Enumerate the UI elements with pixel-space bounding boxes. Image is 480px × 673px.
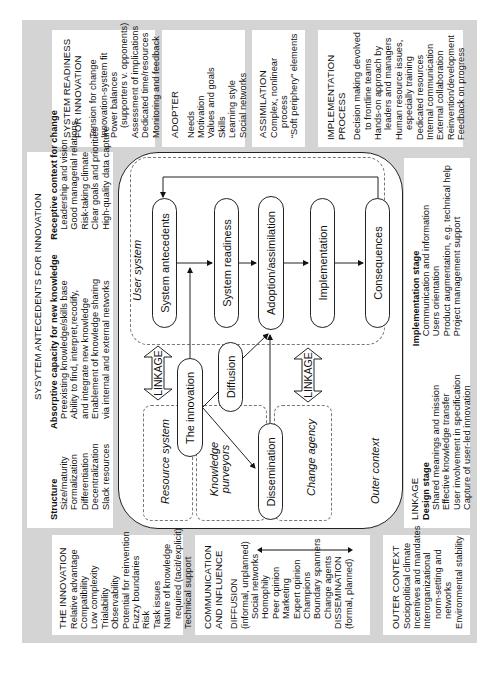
list-item: Environmental stability xyxy=(454,526,464,629)
system-readiness-node: System readiness xyxy=(214,198,239,328)
list-item: Technical support xyxy=(183,528,193,629)
list-item: Observability xyxy=(110,528,120,629)
list-item: Relative advantage xyxy=(69,528,79,629)
system-antecedents-node: System antecedents xyxy=(152,198,177,328)
box-title: OUTER CONTEXT xyxy=(391,526,402,629)
label-line: purveyors xyxy=(220,429,231,509)
list-item: Task issues xyxy=(152,528,162,629)
list-item: Trialability xyxy=(100,528,110,629)
resource-system-label: Resource system xyxy=(159,424,171,504)
outer-context-label: Outer context xyxy=(369,436,381,506)
list-item: Risk xyxy=(141,528,151,629)
adoption-assimilation-node: Adoption/assimilation xyxy=(258,196,284,330)
linkage-label-right: LINKAGE xyxy=(293,347,323,403)
node-label: Dissemination xyxy=(265,437,277,506)
knowledge-purveyors-label: Knowledge purveyors xyxy=(209,429,231,509)
consequences-node: Consequences xyxy=(365,198,390,328)
list-item: Interorganizational xyxy=(422,526,432,629)
node-label: Adoption/assimilation xyxy=(265,211,277,315)
implementation-node: Implementation xyxy=(310,198,335,328)
list-item: Nature of knowledge xyxy=(162,528,172,629)
diffusion-node: Diffusion xyxy=(218,342,243,412)
dissemination-node: Dissemination xyxy=(258,423,283,520)
node-label: Consequences xyxy=(372,226,384,299)
the-innovation-box: THE INNOVATION Relative advantage Compat… xyxy=(52,535,183,635)
innovation-node: The innovation xyxy=(177,358,203,457)
diffusion-sub: (informal, unplanned) xyxy=(240,538,250,629)
node-label: Diffusion xyxy=(225,356,237,399)
node-label: The innovation xyxy=(184,371,196,443)
list-item: Sociopolitical climate xyxy=(402,526,412,629)
list-item: networks xyxy=(443,526,453,629)
node-label: System readiness xyxy=(221,219,233,306)
node-label: System antecedents xyxy=(159,213,171,313)
user-system-label: User system xyxy=(131,241,143,301)
linkage-label: LINKAGE xyxy=(152,350,164,396)
change-agency-label: Change agency xyxy=(305,426,317,496)
box-title: THE INNOVATION xyxy=(58,528,69,629)
box-title: AND INFLUENCE xyxy=(214,538,225,629)
list-item: Potential for reinvention xyxy=(121,528,131,629)
list-item: Low complexity xyxy=(89,528,99,629)
linkage-label: LINKAGE xyxy=(302,352,314,398)
communication-influence-box: COMMUNICATION AND INFLUENCE DIFFUSION (i… xyxy=(195,535,370,635)
outer-context-box: OUTER CONTEXT Sociopolitical climate Inc… xyxy=(383,535,470,635)
list-item: norm-setting and xyxy=(433,526,443,629)
list-item: Fuzzy boundaries xyxy=(131,528,141,629)
diffusion-label: DIFFUSION xyxy=(229,538,239,629)
diffusion-dissemination-arrow-icon xyxy=(257,545,353,555)
linkage-label-left: LINKAGE xyxy=(143,345,173,401)
list-item: Compatibility xyxy=(79,528,89,629)
box-title: COMMUNICATION xyxy=(203,538,214,629)
list-item: Incentives and mandates xyxy=(412,526,422,629)
node-label: Implementation xyxy=(317,225,329,300)
list-item: required (tacit/explicit) xyxy=(173,528,183,629)
